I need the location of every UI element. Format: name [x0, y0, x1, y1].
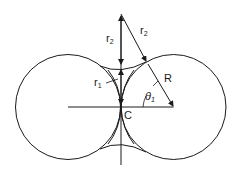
label-r2-slanted: r2 — [140, 24, 148, 37]
label-C: C — [124, 109, 132, 121]
two-circles-contact-diagram: r2 r2 r1 R θ1 C — [0, 0, 236, 172]
label-r1: r1 — [94, 76, 102, 89]
r2-slanted-line — [121, 14, 146, 61]
label-theta: θ1 — [145, 90, 155, 103]
label-r2-vertical: r2 — [106, 32, 114, 45]
label-R: R — [164, 72, 172, 84]
R-leader — [153, 81, 158, 86]
r1-leader — [106, 79, 118, 83]
upper-neck-arc — [100, 62, 146, 70]
lower-neck-arc — [100, 145, 146, 152]
